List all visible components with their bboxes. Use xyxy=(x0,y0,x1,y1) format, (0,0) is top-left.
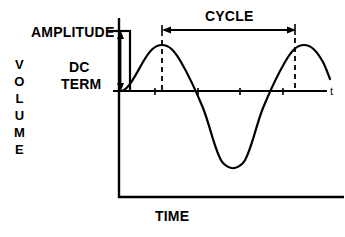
volume-letter: M xyxy=(14,124,25,141)
volume-letter: L xyxy=(14,90,25,107)
cycle-label: CYCLE xyxy=(205,8,253,24)
cycle-double-arrow xyxy=(162,24,296,36)
time-axis-label: TIME xyxy=(155,208,189,224)
volume-letter: E xyxy=(14,141,25,158)
volume-letter: V xyxy=(14,56,25,73)
sine-waveform-curve xyxy=(121,45,330,168)
cycle-arrowhead-left xyxy=(162,27,171,34)
volume-letter: U xyxy=(14,107,25,124)
dc-term-label-line1: DC xyxy=(69,59,90,75)
t-variable-label: t xyxy=(330,84,334,99)
waveform-diagram: AMPLITUDE CYCLE DC TERM TIME t V O L U M… xyxy=(0,0,345,237)
volume-axis-label: V O L U M E xyxy=(14,56,25,158)
dc-term-label-line2: TERM xyxy=(61,76,101,92)
amplitude-label: AMPLITUDE xyxy=(31,24,114,40)
volume-letter: O xyxy=(14,73,25,90)
